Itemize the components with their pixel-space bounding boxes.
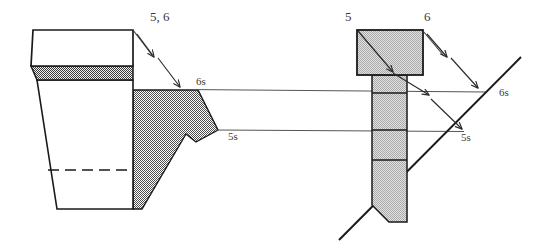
right-leader-line xyxy=(423,31,444,56)
label-left-upper-shadow: 6s xyxy=(196,76,206,87)
left-top-box xyxy=(31,30,133,66)
label-right-point-5: 5 xyxy=(345,10,352,23)
label-right-lower-shadow: 5s xyxy=(461,132,471,143)
label-right-upper-shadow: 6s xyxy=(499,87,509,98)
right-view-group xyxy=(339,30,521,240)
label-left-source: 5, 6 xyxy=(150,10,170,23)
left-shaded-wedge xyxy=(133,90,218,209)
right-shaft xyxy=(372,75,407,222)
label-left-lower-shadow: 5s xyxy=(228,131,238,142)
left-dark-band xyxy=(31,66,133,80)
projection-rays-group xyxy=(186,90,487,132)
technical-diagram: 5, 6 6s 5s 5 6 6s 5s xyxy=(0,0,551,249)
arrow-6-second xyxy=(451,58,478,88)
arrow-6s-to-5s xyxy=(431,99,462,129)
incline-reference-line xyxy=(339,57,521,240)
ray-5s xyxy=(216,130,464,132)
left-lower-body xyxy=(37,80,133,209)
left-view-group xyxy=(31,30,218,209)
arrow-5-6-second xyxy=(158,58,180,87)
diagram-canvas xyxy=(0,0,551,249)
label-right-point-6: 6 xyxy=(424,10,431,23)
arrow-5-6-first xyxy=(137,34,154,57)
arrow-6-first xyxy=(427,34,447,57)
ray-6s xyxy=(186,90,487,93)
